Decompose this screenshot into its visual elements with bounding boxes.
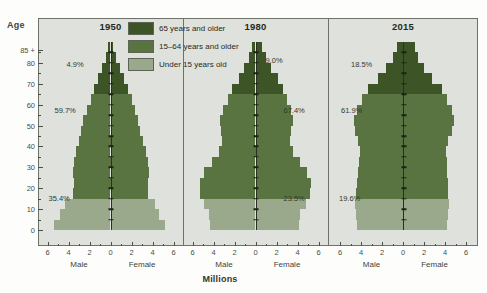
y-axis-tick-label: 20 [1, 184, 35, 193]
y-axis-minor-tick [38, 136, 41, 137]
x-axis-tick [153, 242, 154, 246]
y-axis-minor-tick [38, 52, 41, 53]
bar-female-65-69 [256, 84, 283, 94]
x-axis-minor-tick [142, 244, 143, 247]
y-axis-tick [38, 146, 43, 147]
bar-male-0-4 [210, 220, 255, 230]
bar-male-10-14 [355, 199, 403, 209]
panel-center-tick [254, 198, 259, 200]
panel-title-2015: 2015 [392, 21, 414, 32]
x-axis-tick-label: 2 [87, 248, 91, 257]
percent-annotation-1950-1: 59.7% [55, 106, 76, 115]
bar-female-45-49 [256, 126, 292, 136]
bar-female-25-29 [256, 167, 307, 177]
x-axis-minor-tick [393, 244, 394, 247]
bar-female-45-49 [111, 126, 140, 136]
panel-center-tick [109, 146, 114, 148]
legend-swatch-2 [128, 58, 154, 71]
panel-center-tick [401, 219, 406, 221]
male-axis-label: Male [215, 260, 232, 269]
y-axis-minor-tick [38, 220, 41, 221]
x-axis-tick [466, 242, 467, 246]
x-axis-tick-label: 6 [464, 248, 468, 257]
bar-female-0-4 [111, 220, 166, 230]
bar-male-65-69 [232, 84, 255, 94]
y-axis-tick-label: 0 [1, 226, 35, 235]
bar-male-50-54 [354, 115, 403, 125]
legend: 65 years and older15–64 years and olderU… [128, 20, 239, 74]
bar-female-35-39 [111, 146, 147, 156]
bar-female-5-9 [111, 209, 159, 219]
legend-label-1: 15–64 years and older [159, 42, 239, 51]
panel-center-tick [254, 83, 259, 85]
percent-annotation-1980-0: 9.0% [266, 56, 283, 65]
panel-center-tick [254, 167, 259, 169]
x-axis-minor-tick [351, 244, 352, 247]
panel-center-tick [401, 208, 406, 210]
x-axis-minor-tick [287, 244, 288, 247]
panel-center-tick [401, 104, 406, 106]
bar-female-50-54 [256, 115, 294, 125]
bar-male-50-54 [220, 115, 256, 125]
panel-center-tick [254, 135, 259, 137]
bar-female-35-39 [403, 146, 446, 156]
bar-female-0-4 [256, 220, 299, 230]
bar-female-10-14 [111, 199, 155, 209]
x-axis-tick-label: 4 [211, 248, 215, 257]
bar-male-55-59 [87, 105, 110, 115]
panel-center-tick [109, 135, 114, 137]
x-axis-tick [256, 242, 257, 246]
bar-female-5-9 [403, 209, 448, 219]
legend-item-0: 65 years and older [128, 20, 239, 37]
bar-male-20-24 [74, 178, 111, 188]
bar-female-40-44 [403, 136, 448, 146]
x-axis-tick [382, 242, 383, 246]
panel-center-tick [109, 62, 114, 64]
bar-female-0-4 [403, 220, 447, 230]
legend-swatch-0 [128, 22, 154, 35]
x-axis-minor-tick [456, 244, 457, 247]
panel-center-tick [109, 156, 114, 158]
panel-center-tick [401, 125, 406, 127]
bar-male-15-19 [356, 188, 403, 198]
x-axis-tick [277, 242, 278, 246]
bar-male-40-44 [79, 136, 111, 146]
bar-male-10-14 [65, 199, 110, 209]
x-axis-tick [174, 242, 175, 246]
y-axis-tick [38, 50, 43, 51]
y-axis-minor-tick [38, 199, 41, 200]
panel-center-tick [254, 62, 259, 64]
bar-female-20-24 [256, 178, 312, 188]
panel-center-tick [109, 187, 114, 189]
panel-center-tick [401, 146, 406, 148]
panel-center-tick [254, 104, 259, 106]
bar-male-30-34 [74, 157, 111, 167]
panel-center-tick [401, 83, 406, 85]
x-axis-tick-label: 0 [401, 248, 405, 257]
panel-center-tick [109, 104, 114, 106]
panel-center-tick [401, 187, 406, 189]
panel-center-tick [254, 177, 259, 179]
bar-female-30-34 [256, 157, 300, 167]
panel-center-tick [401, 156, 406, 158]
legend-item-2: Under 15 years old [128, 56, 239, 73]
bar-male-45-49 [355, 126, 403, 136]
x-axis-tick-label: 4 [150, 248, 154, 257]
panel-center-tick [401, 93, 406, 95]
female-axis-label: Female [274, 260, 301, 269]
bar-female-60-64 [111, 94, 132, 104]
x-axis-tick-label: 0 [108, 248, 112, 257]
bar-female-60-64 [403, 94, 447, 104]
x-axis-minor-tick [372, 244, 373, 247]
y-axis-tick-label: 60 [1, 100, 35, 109]
bar-male-20-24 [357, 178, 403, 188]
y-axis-tick [38, 84, 43, 85]
y-axis-tick-label: 40 [1, 142, 35, 151]
x-axis-minor-tick [224, 244, 225, 247]
bar-male-25-29 [358, 167, 403, 177]
y-axis-tick [38, 209, 43, 210]
x-axis-tick [132, 242, 133, 246]
panel-center-tick [401, 167, 406, 169]
y-axis-tick [38, 230, 43, 231]
bar-female-20-24 [111, 178, 149, 188]
